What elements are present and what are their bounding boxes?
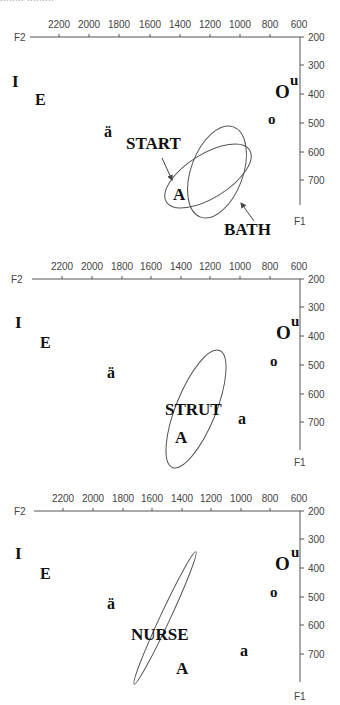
f2-tick-label: 1200 [200, 493, 223, 504]
f1-axis: 200 300 400 500 600 700 F1 [294, 506, 325, 702]
vowel-O: O [275, 553, 290, 574]
f1-tick-label: 500 [308, 118, 325, 129]
label-bath: BATH [224, 220, 271, 239]
f2-axis-label: F2 [11, 274, 23, 285]
f2-tick-label: 2000 [82, 493, 105, 504]
f2-tick-label: 800 [262, 493, 279, 504]
f1-axis: 200 300 400 500 600 700 F1 [294, 32, 325, 227]
f1-axis: 200 300 400 500 600 700 F1 [294, 274, 325, 468]
f1-tick-label: 200 [308, 32, 325, 43]
f1-tick-label: 700 [308, 417, 325, 428]
vowel-O: O [276, 322, 291, 343]
f2-tick-label: 600 [291, 493, 308, 504]
f1-tick-label: 400 [308, 89, 325, 100]
f2-tick-label: 1000 [229, 19, 252, 30]
vowel-E: E [35, 91, 46, 108]
f2-tick-label: 800 [262, 261, 279, 272]
vowel-u: u [290, 72, 298, 88]
f1-tick-label: 700 [308, 649, 325, 660]
f1-tick-label: 300 [308, 60, 325, 71]
vowel-I: I [12, 72, 19, 91]
vowel-A: A [173, 185, 186, 204]
f1-axis-label: F1 [294, 457, 306, 468]
f2-tick-label: 1000 [229, 261, 252, 272]
f1-tick-label: 300 [308, 534, 325, 545]
f2-tick-label: 1200 [199, 261, 222, 272]
vowel-a-umlaut: ä [104, 123, 112, 140]
f2-tick-label: 1800 [112, 493, 135, 504]
f2-tick-label: 600 [291, 261, 308, 272]
f1-tick-label: 600 [308, 389, 325, 400]
vowel-labels: I E ä O u o a A [15, 544, 299, 678]
vowel-a: a [240, 642, 248, 659]
f2-tick-label: 1600 [141, 493, 164, 504]
vowel-o: o [268, 111, 276, 127]
f2-axis-label: F2 [14, 32, 26, 43]
vowel-a: a [238, 410, 246, 427]
f2-tick-label: 1600 [139, 19, 162, 30]
label-start: START [126, 134, 181, 153]
f2-axis-label: F2 [14, 506, 26, 517]
vowel-a-umlaut: ä [107, 595, 115, 612]
vowel-A: A [176, 659, 189, 678]
arrow-bath [241, 203, 254, 221]
chart-panel-nurse: F2 2200 2000 1800 1600 1400 1200 1000 80… [14, 493, 325, 702]
vowel-A: A [175, 428, 188, 447]
vowel-I: I [15, 544, 22, 563]
label-nurse: NURSE [131, 625, 189, 644]
f2-tick-label: 1400 [171, 493, 194, 504]
f1-tick-label: 500 [308, 360, 325, 371]
vowel-o: o [270, 353, 278, 369]
f2-tick-label: 1200 [199, 19, 222, 30]
f2-tick-label: 2000 [78, 19, 101, 30]
f2-tick-label: 2200 [52, 493, 75, 504]
chart-panel-start-bath: F2 2200 2000 1800 1600 1400 1200 1000 80… [12, 19, 325, 239]
f2-tick-label: 1800 [111, 261, 134, 272]
f2-tick-label: 1400 [170, 261, 193, 272]
f2-tick-label: 1800 [108, 19, 131, 30]
f2-tick-label: 800 [262, 19, 279, 30]
chart-panel-strut: F2 2200 2000 1800 1600 1400 1200 1000 80… [11, 261, 325, 475]
f1-tick-label: 400 [308, 563, 325, 574]
vowel-E: E [40, 565, 51, 582]
f1-tick-label: 600 [308, 147, 325, 158]
f1-tick-label: 200 [308, 506, 325, 517]
vowel-a-umlaut: ä [107, 364, 115, 381]
f2-tick-label: 2000 [81, 261, 104, 272]
f1-axis-label: F1 [294, 216, 306, 227]
f1-tick-label: 300 [308, 302, 325, 313]
f2-tick-label: 2200 [48, 19, 71, 30]
f2-axis: F2 2200 2000 1800 1600 1400 1200 1000 80… [11, 261, 308, 285]
f1-tick-label: 600 [308, 620, 325, 631]
vowel-E: E [40, 334, 51, 351]
f2-tick-label: 2200 [51, 261, 74, 272]
f1-tick-label: 700 [308, 175, 325, 186]
arrow-start [162, 158, 172, 180]
vowel-o: o [270, 584, 278, 600]
f1-tick-label: 400 [308, 331, 325, 342]
f1-axis-label: F1 [294, 691, 306, 702]
vowel-O: O [275, 81, 290, 102]
f1-tick-label: 500 [308, 592, 325, 603]
vowel-u: u [291, 544, 299, 560]
f2-tick-label: 1000 [230, 493, 253, 504]
f2-tick-label: 1600 [140, 261, 163, 272]
f2-tick-label: 600 [291, 19, 308, 30]
vowel-I: I [15, 313, 22, 332]
f2-axis: F2 2200 2000 1800 1600 1400 1200 1000 80… [14, 19, 308, 43]
vowel-u: u [291, 313, 299, 329]
label-strut: STRUT [165, 400, 222, 419]
f1-tick-label: 200 [308, 274, 325, 285]
f2-tick-label: 1400 [169, 19, 192, 30]
vowel-labels: I E ä O u o a A [15, 313, 299, 447]
f2-axis: F2 2200 2000 1800 1600 1400 1200 1000 80… [14, 493, 308, 517]
ellipse-nurse [130, 550, 201, 687]
